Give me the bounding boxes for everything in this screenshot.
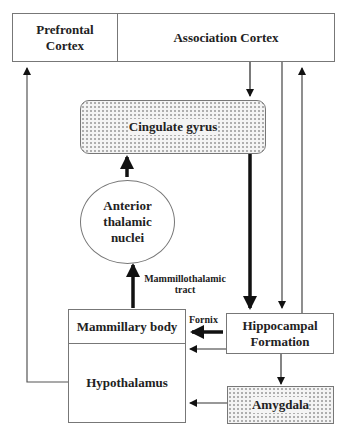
prefrontal-cortex-label: Prefrontal Cortex <box>30 22 100 54</box>
mammillothalamic-tract-label: Mammillothalamic tract <box>140 273 230 295</box>
anterior-thalamic-nuclei-node: Anterior thalamic nuclei <box>80 180 175 264</box>
hippocampal-formation-node: Hippocampal Formation <box>226 313 334 354</box>
fornix-label: Fornix <box>189 314 218 325</box>
cingulate-gyrus-node: Cingulate gyrus <box>80 100 266 154</box>
mammillary-body-node: Mammillary body <box>68 309 186 344</box>
hypothalamus-node: Hypothalamus <box>68 343 186 423</box>
anterior-thalamic-nuclei-label: Anterior thalamic nuclei <box>86 198 170 246</box>
cingulate-gyrus-label: Cingulate gyrus <box>129 119 217 135</box>
hippocampal-formation-label: Hippocampal Formation <box>235 318 325 350</box>
association-cortex-node: Association Cortex <box>117 13 335 62</box>
edge-hypothalamus-to-prefrontal <box>27 68 68 382</box>
association-cortex-label: Association Cortex <box>173 30 278 46</box>
mammillary-body-label: Mammillary body <box>77 319 178 335</box>
prefrontal-cortex-node: Prefrontal Cortex <box>12 13 118 62</box>
amygdala-label: Amygdala <box>252 397 309 413</box>
hypothalamus-label: Hypothalamus <box>86 375 168 391</box>
amygdala-node: Amygdala <box>227 386 334 424</box>
